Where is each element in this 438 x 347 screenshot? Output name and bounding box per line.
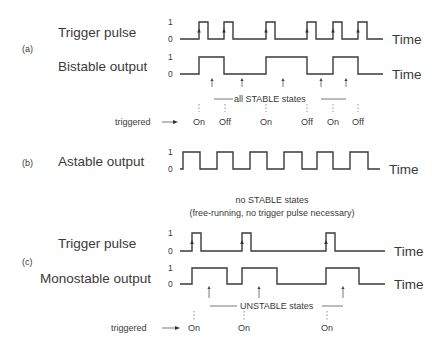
signal-label-astable-output: Astable output [58,154,145,169]
waveform-c-1 [180,268,385,284]
rising-edge-arrow-icon [356,29,360,33]
level-label-low: 0 [168,246,173,256]
waveforms: 10Time10Timeall STABLE statestriggeredOn… [111,17,424,333]
state-arrow-icon-head [210,78,213,81]
time-axis-label: Time [392,67,422,82]
state-caption: UNSTABLE states [240,301,314,311]
level-label-high: 1 [168,147,173,157]
triggered-label: triggered [115,117,151,127]
rising-edge-arrow-icon [331,29,335,33]
level-label-high: 1 [168,228,173,238]
level-label-low: 0 [168,164,173,174]
rising-edge-arrow-icon [324,240,328,244]
level-label-high: 1 [168,52,173,62]
state-arrow-icon-head [257,286,260,289]
section-tag-a: (a) [22,44,33,54]
triggered-label: triggered [111,323,147,333]
trigger-state-label: On [193,117,205,127]
signal-label-trigger-pulse-c: Trigger pulse [58,236,136,251]
state-arrow-icon-head [281,78,284,81]
trigger-state-label: On [260,117,272,127]
state-caption: all STABLE states [234,94,306,104]
level-label-low: 0 [168,279,173,289]
trigger-state-label: On [321,323,333,333]
trigger-state-label: Off [352,117,364,127]
state-arrow-icon-head [207,286,210,289]
rising-edge-arrow-icon [197,29,201,33]
level-label-low: 0 [168,69,173,79]
rising-edge-arrow-icon [222,29,226,33]
signal-label-bistable-output: Bistable output [58,59,148,74]
time-axis-label: Time [394,244,424,259]
astable-caption-line-1: no STABLE states [236,195,309,205]
time-axis-label: Time [392,32,422,47]
state-arrow-icon-head [341,286,344,289]
time-axis-label: Time [389,162,419,177]
trigger-state-label: Off [301,117,313,127]
state-arrow-icon-head [319,78,322,81]
state-arrow-icon-head [240,78,243,81]
state-arrow-icon-head [344,78,347,81]
rising-edge-arrow-icon [240,240,244,244]
triggered-arrow-head-icon [173,120,178,124]
rising-edge-arrow-icon [264,29,268,33]
time-axis-label: Time [394,277,424,292]
signal-label-trigger-pulse-a: Trigger pulse [58,25,136,40]
trigger-state-label: Off [219,117,231,127]
waveform-a-0 [180,22,383,39]
trigger-state-label: On [188,323,200,333]
astable-caption-line-2: (free-running, no trigger pulse necessar… [189,208,354,218]
trigger-state-label: On [238,323,250,333]
level-label-high: 1 [168,17,173,27]
signal-label-monostable-output: Monostable output [40,271,151,286]
level-label-low: 0 [168,34,173,44]
timing-diagram: (a) (b) (c) Trigger pulse Bistable outpu… [0,0,438,347]
section-tag-c: (c) [22,257,33,267]
rising-edge-arrow-icon [190,240,194,244]
waveform-a-1 [180,57,383,74]
section-tag-b: (b) [22,158,33,168]
triggered-arrow-head-icon [175,326,180,330]
trigger-state-label: On [327,117,339,127]
waveform-b-0 [180,152,380,169]
waveform-c-0 [180,233,385,251]
level-label-high: 1 [168,263,173,273]
rising-edge-arrow-icon [305,29,309,33]
